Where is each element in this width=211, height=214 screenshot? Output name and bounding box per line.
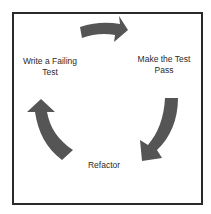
arrow-right-icon — [80, 16, 128, 42]
arrow-up-left-icon — [27, 99, 73, 160]
step-label-line2: Pass — [130, 65, 198, 76]
arrow-down-left-icon — [140, 98, 178, 161]
step-refactor: Refactor — [80, 160, 128, 171]
step-label-line1: Make the Test — [130, 54, 198, 65]
cycle-arrows — [0, 0, 211, 214]
step-label-line1: Refactor — [80, 160, 128, 171]
step-label-line2: Test — [14, 67, 86, 78]
step-write-failing-test: Write a Failing Test — [14, 56, 86, 78]
step-make-test-pass: Make the Test Pass — [130, 54, 198, 76]
step-label-line1: Write a Failing — [14, 56, 86, 67]
